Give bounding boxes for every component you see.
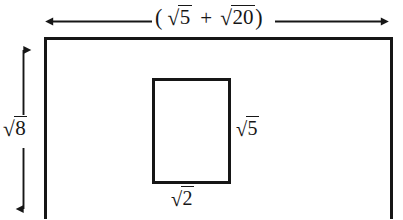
close-paren: ) [255, 5, 262, 30]
outer-width-label: ( √5 + √20) [155, 6, 262, 29]
sqrt-2-radical: √2 [171, 187, 194, 209]
outer-rectangle [46, 39, 392, 220]
plus-operator: + [197, 6, 215, 30]
sqrt-8-radical: √8 [3, 117, 27, 140]
inner-bottom-label: √2 [171, 187, 194, 209]
figure-canvas [0, 0, 403, 219]
outer-height-label: √8 [3, 117, 27, 140]
sqrt-5-radical: √5 [236, 117, 259, 139]
inner-right-label: √5 [236, 117, 259, 139]
radicand: 2 [181, 186, 194, 208]
sqrt-5-radical: √5 [168, 6, 192, 29]
radicand: 20 [231, 5, 255, 28]
radicand: 5 [246, 116, 259, 138]
radicand: 5 [178, 5, 192, 28]
radicand: 8 [14, 116, 28, 139]
geometry-figure: ( √5 + √20) √8 √5 √2 [0, 0, 403, 219]
sqrt-20-radical: √20 [220, 6, 255, 29]
open-paren: ( [155, 5, 162, 30]
inner-rectangle [154, 80, 230, 183]
